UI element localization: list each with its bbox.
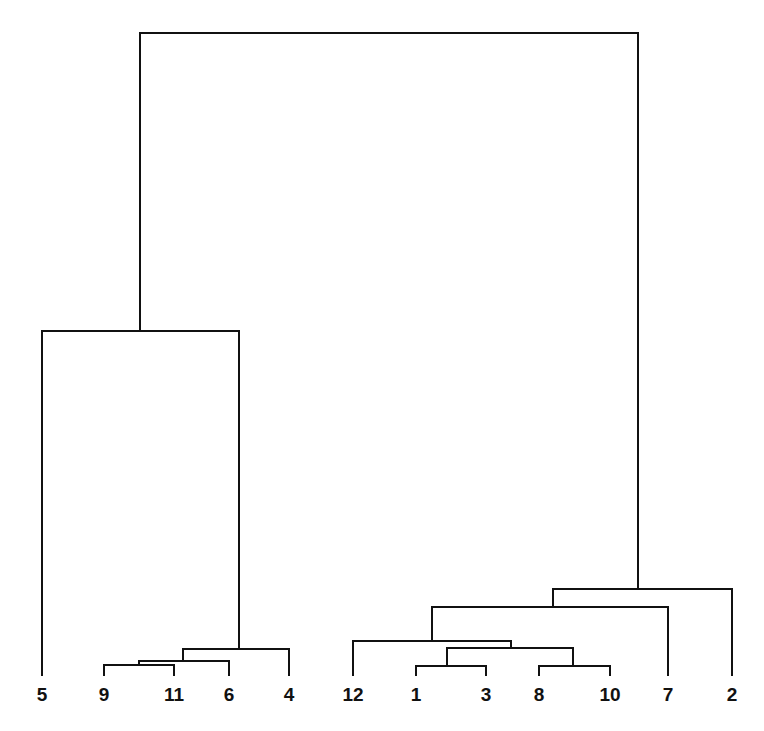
- dendrogram: 591164121381072: [0, 0, 764, 731]
- merge-link: [140, 33, 638, 589]
- leaf-label: 1: [411, 684, 422, 705]
- merge-link: [539, 666, 610, 676]
- leaf-label: 4: [284, 684, 295, 705]
- leaf-label: 9: [99, 684, 110, 705]
- leaf-label: 10: [599, 684, 620, 705]
- leaf-label: 11: [164, 684, 185, 705]
- leaf-label: 2: [727, 684, 738, 705]
- merge-link: [416, 666, 486, 676]
- merge-link: [42, 331, 239, 676]
- merge-link: [183, 649, 289, 676]
- leaf-labels: 591164121381072: [37, 684, 738, 705]
- merge-link: [353, 641, 511, 676]
- leaf-label: 8: [534, 684, 545, 705]
- merge-link: [104, 665, 174, 676]
- leaf-label: 3: [481, 684, 492, 705]
- merge-link: [447, 648, 573, 666]
- dendrogram-links: [42, 33, 732, 676]
- merge-link: [553, 589, 732, 676]
- merge-link: [139, 661, 229, 676]
- leaf-label: 7: [663, 684, 674, 705]
- leaf-label: 12: [342, 684, 363, 705]
- leaf-label: 6: [224, 684, 235, 705]
- leaf-label: 5: [37, 684, 48, 705]
